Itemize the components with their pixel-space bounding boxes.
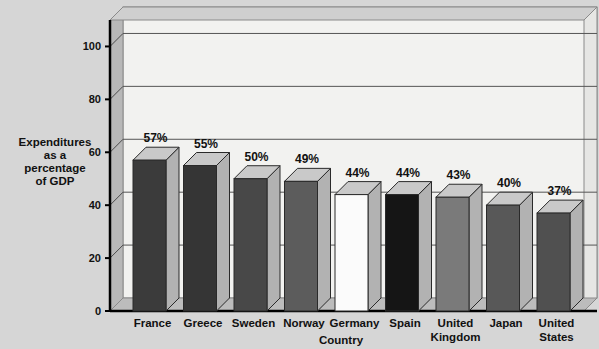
x-axis-category-label: Greece	[183, 317, 222, 329]
bar-front-face	[537, 213, 570, 311]
x-axis-category-label: Spain	[389, 317, 420, 329]
y-axis-title-line: as a	[44, 149, 67, 161]
bar-value-label: 55%	[194, 137, 218, 151]
x-axis-category-label: States	[539, 331, 574, 343]
bar-side-face	[520, 192, 533, 311]
y-axis-title-line: of GDP	[36, 175, 75, 187]
bar-group	[537, 200, 583, 311]
bar-side-face	[419, 182, 432, 311]
bar-front-face	[487, 205, 520, 311]
bar-group	[436, 184, 482, 311]
bar-group	[386, 182, 432, 311]
x-axis-category-label: United	[438, 317, 474, 329]
bar-front-face	[184, 166, 217, 312]
bar-value-label: 57%	[143, 131, 167, 145]
bar-front-face	[335, 195, 368, 311]
plot-right-wall	[584, 7, 597, 311]
y-axis-tick-label: 40	[89, 199, 101, 211]
bar-front-face	[386, 195, 419, 311]
bar-value-label: 40%	[497, 176, 521, 190]
bar-group	[335, 182, 381, 311]
bar-value-label: 44%	[345, 166, 369, 180]
bar-group	[285, 168, 331, 311]
bar-value-label: 43%	[446, 168, 470, 182]
bar-side-face	[368, 182, 381, 311]
y-axis-tick-label: 100	[83, 40, 101, 52]
bar-group	[487, 192, 533, 311]
x-axis-category-label: Japan	[489, 317, 522, 329]
x-axis-category-label: Sweden	[232, 317, 275, 329]
x-axis-category-label: Kingdom	[431, 331, 481, 343]
bar-side-face	[570, 200, 583, 311]
bar-side-face	[166, 147, 179, 311]
x-axis-category-label: Germany	[330, 317, 380, 329]
chart-container: 02040608010057%France55%Greece50%Sweden4…	[0, 0, 599, 349]
bar-group	[184, 153, 230, 312]
x-axis-category-label: France	[134, 317, 172, 329]
y-axis-tick-label: 80	[89, 93, 101, 105]
x-axis-title: Country	[319, 334, 364, 346]
y-axis-title-line: Expenditures	[19, 136, 92, 148]
bar-front-face	[234, 179, 267, 311]
bar-front-face	[133, 160, 166, 311]
bar-value-label: 44%	[396, 166, 420, 180]
bar-side-face	[267, 166, 280, 311]
bar-group	[234, 166, 280, 311]
bar-chart: 02040608010057%France55%Greece50%Sweden4…	[0, 0, 599, 349]
bar-value-label: 37%	[547, 184, 571, 198]
x-axis-category-label: United	[539, 317, 575, 329]
bar-side-face	[217, 153, 230, 312]
bar-side-face	[318, 168, 331, 311]
y-axis-tick-label: 20	[89, 252, 101, 264]
plot-left-wall	[110, 7, 123, 311]
x-axis-category-label: Norway	[283, 317, 325, 329]
bar-side-face	[469, 184, 482, 311]
bar-value-label: 49%	[295, 152, 319, 166]
y-axis-tick-label: 60	[89, 146, 101, 158]
bar-front-face	[436, 197, 469, 311]
plot-ceiling	[110, 7, 597, 20]
bar-front-face	[285, 181, 318, 311]
bar-value-label: 50%	[244, 150, 268, 164]
y-axis-tick-label: 0	[95, 305, 101, 317]
y-axis-title-line: percentage	[24, 162, 85, 174]
bar-group	[133, 147, 179, 311]
